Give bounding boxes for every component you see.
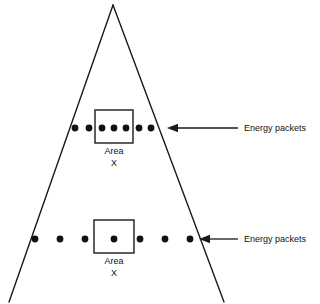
energy-packets-label-far: Energy packets — [244, 234, 307, 244]
energy-packet-dot — [136, 125, 143, 132]
energy-packet-dots-near — [72, 125, 155, 132]
cone-left-edge — [9, 5, 113, 302]
far-row-group: Area X Energy packets — [32, 220, 307, 278]
energy-packet-dot — [111, 236, 118, 243]
energy-packet-dot — [32, 236, 39, 243]
callout-arrow-head-near — [167, 124, 178, 132]
area-label-far-line2: X — [111, 268, 117, 278]
energy-packet-dot — [111, 125, 118, 132]
cone-right-edge — [113, 5, 224, 302]
energy-packet-dot — [86, 125, 93, 132]
energy-packet-dot — [162, 236, 169, 243]
energy-packet-dot — [123, 125, 130, 132]
energy-packet-dot — [57, 236, 64, 243]
energy-packet-dot — [148, 125, 155, 132]
area-label-near-line1: Area — [104, 146, 123, 156]
energy-packet-dot — [82, 236, 89, 243]
energy-packet-dot — [187, 236, 194, 243]
callout-arrow-head-far — [199, 235, 210, 243]
energy-packet-dot — [99, 125, 106, 132]
energy-packet-diagram: Area X Energy packets Area X Energy pack… — [0, 0, 320, 304]
area-label-near-line2: X — [111, 158, 117, 168]
area-label-far-line1: Area — [104, 256, 123, 266]
energy-packet-dot — [72, 125, 79, 132]
diagram-canvas: Area X Energy packets Area X Energy pack… — [0, 0, 320, 304]
energy-packets-label-near: Energy packets — [244, 123, 307, 133]
energy-packet-dots-far — [32, 236, 194, 243]
near-row-group: Area X Energy packets — [72, 110, 307, 168]
energy-packet-dot — [137, 236, 144, 243]
